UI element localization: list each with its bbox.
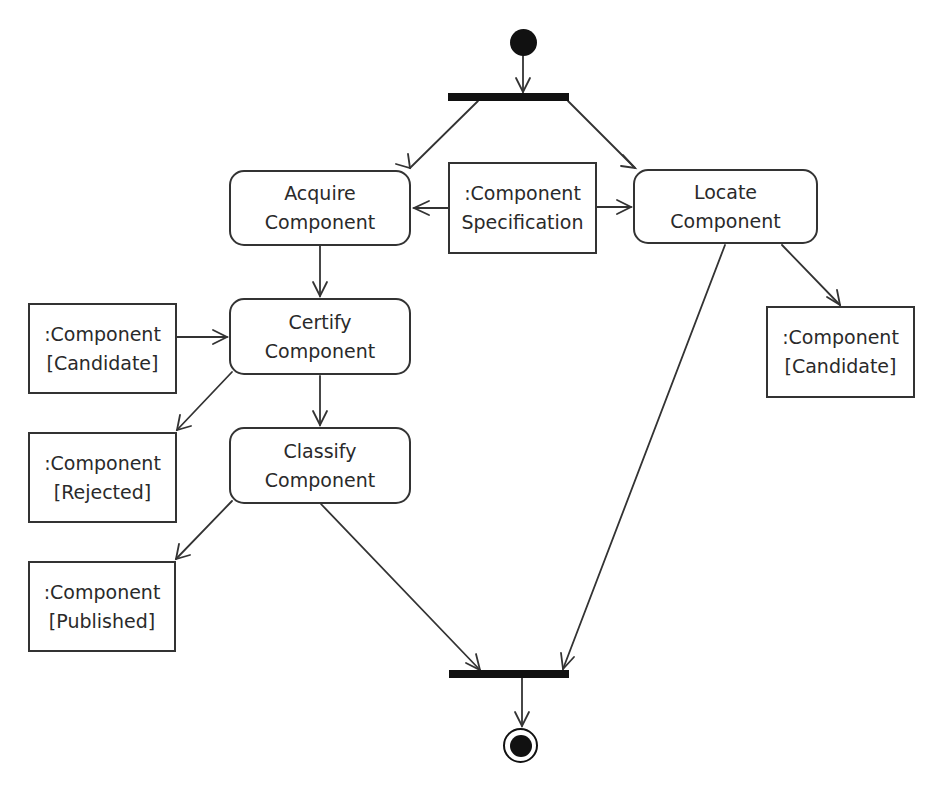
action-classify-component[interactable]: Classify Component (229, 427, 411, 504)
object-label-line2: [Published] (49, 607, 155, 636)
object-label-line1: :Component (44, 578, 161, 607)
object-component-candidate-right[interactable]: :Component [Candidate] (766, 306, 915, 398)
action-label-line2: Component (265, 337, 375, 366)
flow-fork-to-acquire (396, 101, 478, 168)
action-label-line1: Locate (694, 178, 757, 207)
flow-locate-to-candidate (782, 245, 840, 305)
flow-start-to-fork (516, 56, 530, 92)
object-component-candidate-left[interactable]: :Component [Candidate] (28, 303, 177, 394)
object-component-rejected[interactable]: :Component [Rejected] (28, 432, 177, 523)
action-label-line2: Component (265, 208, 375, 237)
flow-candidate-to-certify (176, 330, 227, 344)
flow-classify-to-join (321, 504, 480, 670)
flow-classify-to-published (176, 501, 232, 559)
flow-acquire-to-certify (313, 246, 327, 296)
object-label-line1: :Component (44, 320, 161, 349)
object-label-line1: :Component (782, 323, 899, 352)
action-label-line2: Component (265, 466, 375, 495)
object-component-published[interactable]: :Component [Published] (28, 561, 176, 652)
final-node-inner (510, 735, 532, 757)
join-bar (449, 670, 569, 678)
flow-fork-to-locate (568, 101, 635, 168)
object-label-line2: [Rejected] (54, 478, 151, 507)
flow-certify-to-rejected (177, 372, 232, 430)
final-node (503, 728, 538, 763)
object-label-line1: :Component (464, 179, 581, 208)
object-label-line2: [Candidate] (785, 352, 897, 381)
action-certify-component[interactable]: Certify Component (229, 298, 411, 375)
flow-spec-to-acquire (414, 201, 448, 215)
action-label-line2: Component (670, 207, 780, 236)
object-component-specification[interactable]: :Component Specification (448, 162, 597, 254)
flow-join-to-final (515, 678, 529, 726)
object-label-line2: Specification (462, 208, 584, 237)
object-label-line2: [Candidate] (47, 349, 159, 378)
action-label-line1: Certify (288, 308, 351, 337)
action-label-line1: Acquire (284, 179, 356, 208)
action-label-line1: Classify (284, 437, 357, 466)
flow-certify-to-classify (313, 376, 327, 425)
fork-bar (448, 93, 569, 101)
action-acquire-component[interactable]: Acquire Component (229, 170, 411, 246)
object-label-line1: :Component (44, 449, 161, 478)
action-locate-component[interactable]: Locate Component (633, 169, 818, 244)
flow-locate-to-join (561, 245, 725, 669)
flow-spec-to-locate (596, 200, 631, 214)
initial-node (510, 29, 537, 56)
